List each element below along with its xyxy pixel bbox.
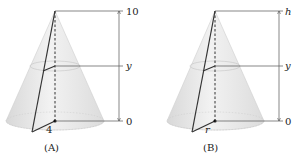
bottom-label: 0 <box>126 116 132 127</box>
figure-caption: (B) <box>203 142 218 153</box>
bottom-label: 0 <box>285 116 291 127</box>
cone-diagrams: 10 y 0 4 (A) h y 0 r (B) <box>0 0 295 158</box>
radius-label: 4 <box>46 124 52 135</box>
mid-label: y <box>284 60 291 71</box>
mid-label: y <box>125 60 132 71</box>
top-label: 10 <box>126 6 139 17</box>
cone-figure-b: h y 0 r (B) <box>167 6 291 154</box>
cone-figure-a: 10 y 0 4 (A) <box>6 6 139 154</box>
figure-caption: (A) <box>44 142 59 153</box>
top-label: h <box>285 6 291 17</box>
